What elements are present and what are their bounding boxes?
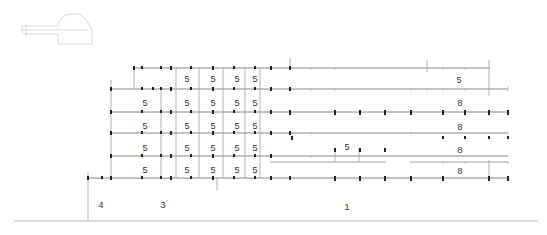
space-label: 5 xyxy=(142,122,147,131)
space-label: 5 xyxy=(184,166,189,175)
space-label: 4 xyxy=(98,201,103,210)
space-label: 5 xyxy=(234,99,239,108)
space-label: 5 xyxy=(234,122,239,131)
space-label: 5 xyxy=(210,166,215,175)
space-label: 5 xyxy=(210,75,215,84)
space-label: 5 xyxy=(142,99,147,108)
column-markers xyxy=(87,66,509,181)
space-label: 5 xyxy=(344,143,349,152)
space-label: 5 xyxy=(184,144,189,153)
space-label: 8 xyxy=(457,123,462,132)
space-label: 5 xyxy=(252,144,257,153)
space-label: 5 xyxy=(142,166,147,175)
space-label: 5 xyxy=(252,166,257,175)
space-label: 5 xyxy=(252,122,257,131)
slab-ticks xyxy=(311,67,508,164)
section-linework xyxy=(0,0,547,235)
section-drawing: 555555555555555555555555588588431 xyxy=(0,0,547,235)
floor-4-markers xyxy=(110,131,509,140)
space-label: 5 xyxy=(210,99,215,108)
vertical-walls xyxy=(88,58,489,221)
space-label: 5 xyxy=(456,76,461,85)
space-label: 5 xyxy=(184,122,189,131)
space-label: 8 xyxy=(457,99,462,108)
space-label: 1 xyxy=(344,203,349,212)
space-label: 5 xyxy=(184,75,189,84)
space-label: 5 xyxy=(234,166,239,175)
space-label: 8 xyxy=(457,167,462,176)
space-label: 5 xyxy=(142,144,147,153)
space-label: 5 xyxy=(234,75,239,84)
space-label: 5 xyxy=(234,144,239,153)
space-label: 5 xyxy=(252,99,257,108)
floor-slabs xyxy=(88,68,508,178)
space-label: 5 xyxy=(210,144,215,153)
space-label: 5 xyxy=(184,99,189,108)
space-label: 5 xyxy=(210,122,215,131)
space-label: 3 xyxy=(160,201,165,210)
space-label: 8 xyxy=(457,146,462,155)
roof-sketch-outline xyxy=(22,14,92,44)
space-label: 5 xyxy=(252,75,257,84)
